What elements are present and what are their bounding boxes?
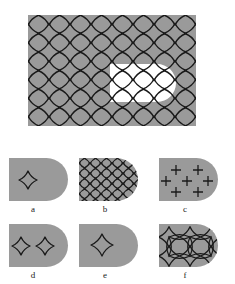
panel-c <box>159 158 218 201</box>
figure-canvas: abcdef <box>0 0 235 284</box>
panel-a <box>9 158 68 201</box>
figure-root: abcdef <box>0 0 235 284</box>
panel-label-b: b <box>103 204 108 214</box>
panel-c-fill <box>159 158 218 201</box>
panel-e-fill <box>79 224 138 267</box>
panel-e <box>79 224 138 267</box>
panel-d <box>9 224 68 267</box>
panel-a-fill <box>9 158 68 201</box>
panel-d-fill <box>9 224 68 267</box>
panel-label-d: d <box>31 270 36 280</box>
panel-label-c: c <box>183 204 187 214</box>
panel-label-a: a <box>31 204 35 214</box>
panel-label-f: f <box>184 270 187 280</box>
panel-label-e: e <box>103 270 107 280</box>
